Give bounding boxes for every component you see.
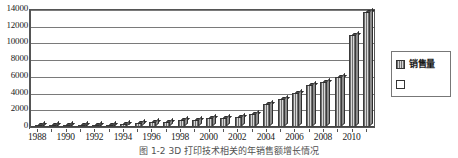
legend-label: 销售量 [409, 59, 435, 69]
bar-slot [331, 77, 345, 127]
legend-swatch-empty-icon [396, 80, 405, 89]
x-axis: 1988199019921994199619982000200220042006… [30, 129, 375, 145]
x-axis-tick-mark [166, 129, 167, 132]
bar [349, 35, 356, 127]
x-axis-tick-label: 2010 [342, 132, 360, 143]
x-axis-tick-label: 1990 [57, 132, 75, 143]
x-axis-tick-label: 2000 [200, 132, 218, 143]
legend-swatch-icon [396, 60, 405, 69]
x-axis-tick-mark [309, 129, 310, 132]
bar [249, 114, 256, 127]
x-axis-tick-label: 2002 [228, 132, 246, 143]
bar-slot [260, 104, 274, 127]
x-axis-tick-mark [280, 129, 281, 132]
bar-slot [317, 82, 331, 127]
x-axis-tick-mark [366, 129, 367, 132]
bar [278, 99, 285, 127]
bar-slot [245, 114, 259, 127]
legend-entry-sales: 销售量 [396, 56, 446, 72]
x-axis-tick-mark [194, 129, 195, 132]
y-axis-tick-label: 6000 [11, 71, 28, 80]
bar [320, 82, 327, 127]
x-axis-tick-label: 2006 [285, 132, 303, 143]
y-axis: 02000400060008000100001200014000 [0, 0, 30, 137]
figure-caption: 图 1-2 3D 打印技术相关的年销售额增长情况 [0, 146, 458, 157]
x-axis-tick-mark [337, 129, 338, 132]
y-axis-tick-label: 0 [24, 121, 28, 130]
bar-slot [303, 85, 317, 127]
y-axis-tick-label: 10000 [6, 37, 28, 46]
bar [335, 77, 342, 127]
legend: 销售量 [391, 51, 451, 97]
x-axis-tick-label: 2008 [314, 132, 332, 143]
bar-slot [345, 35, 359, 127]
x-axis-tick-label: 1992 [85, 132, 103, 143]
y-axis-tick-label: 8000 [11, 54, 28, 63]
x-axis-tick-label: 1998 [171, 132, 189, 143]
bar-slot [360, 12, 374, 127]
y-axis-tick-label: 14000 [6, 4, 28, 13]
bars-container [31, 10, 374, 127]
bar-slot [274, 99, 288, 127]
bar [263, 104, 270, 127]
y-axis-tick-label: 2000 [11, 104, 28, 113]
plot-area [30, 9, 375, 128]
x-axis-tick-mark [80, 129, 81, 132]
chart-figure: 02000400060008000100001200014000 1988199… [0, 0, 458, 158]
baseline [31, 126, 374, 127]
bar-slot [288, 93, 302, 127]
bar [306, 85, 313, 127]
legend-entry-empty [396, 76, 446, 92]
x-axis-tick-label: 1996 [142, 132, 160, 143]
x-axis-tick-mark [137, 129, 138, 132]
y-axis-tick-label: 4000 [11, 88, 28, 97]
x-axis-tick-mark [109, 129, 110, 132]
y-axis-tick-label: 12000 [6, 21, 28, 30]
bar [363, 12, 370, 127]
x-axis-tick-label: 1988 [28, 132, 46, 143]
bar [292, 93, 299, 127]
x-axis-tick-mark [51, 129, 52, 132]
x-axis-tick-mark [252, 129, 253, 132]
x-axis-tick-label: 1994 [114, 132, 132, 143]
x-axis-tick-mark [223, 129, 224, 132]
x-axis-tick-label: 2004 [257, 132, 275, 143]
